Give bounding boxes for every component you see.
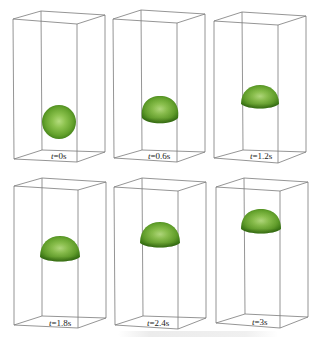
box-wireframe [13, 11, 105, 162]
box-wireframe [113, 10, 205, 162]
droplet-cap [241, 85, 279, 109]
droplet-cap [140, 222, 180, 248]
droplet-cap [40, 236, 80, 262]
droplet-time-sequence-figure: t=0s t=0.6s t=1.2s [0, 0, 318, 344]
panel-t-0s: t=0s [13, 11, 105, 162]
box-wireframe [114, 178, 206, 329]
panel-t-3s: t=3s [216, 178, 308, 328]
panel-t-2.4s: t=2.4s [114, 178, 206, 329]
time-label: t=0s [51, 151, 67, 161]
faded-caption-artifact [118, 331, 278, 337]
panel-t-0.6s: t=0.6s [113, 10, 205, 162]
time-label: t=1.2s [250, 151, 273, 161]
droplet-sphere [42, 105, 76, 139]
time-label: t=1.8s [49, 318, 72, 328]
droplet-flattened [142, 96, 179, 123]
time-label: t=2.4s [147, 318, 170, 328]
panel-t-1.8s: t=1.8s [14, 178, 106, 328]
box-wireframe [216, 178, 308, 328]
time-label: t=0.6s [148, 151, 171, 161]
droplet-cap [241, 209, 281, 234]
panel-t-1.2s: t=1.2s [214, 12, 306, 163]
time-label: t=3s [252, 317, 268, 327]
